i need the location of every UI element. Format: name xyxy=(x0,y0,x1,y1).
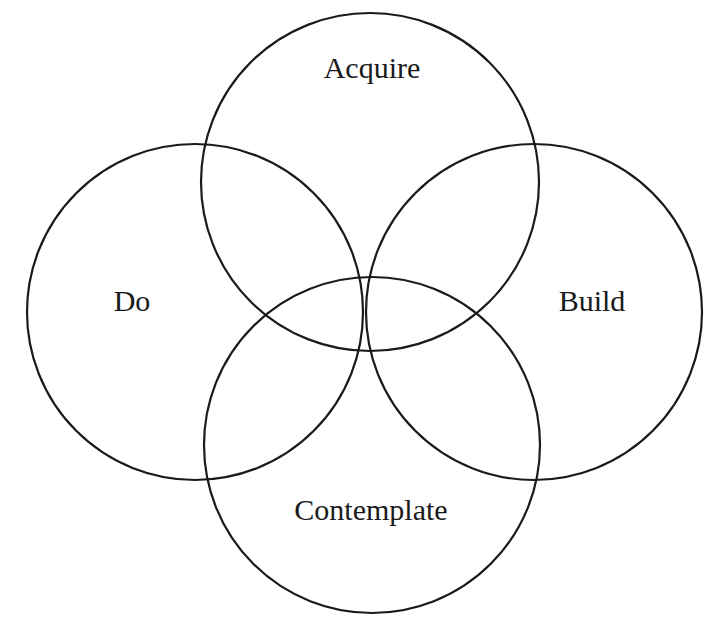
label-build: Build xyxy=(559,284,626,317)
label-contemplate: Contemplate xyxy=(294,493,447,526)
venn-diagram: Acquire Do Build Contemplate xyxy=(0,0,712,622)
circle-build xyxy=(366,144,702,480)
label-do: Do xyxy=(114,284,151,317)
labels-group: Acquire Do Build Contemplate xyxy=(114,51,626,526)
circle-do xyxy=(27,144,363,480)
circle-contemplate xyxy=(204,277,540,613)
label-acquire: Acquire xyxy=(324,51,421,84)
